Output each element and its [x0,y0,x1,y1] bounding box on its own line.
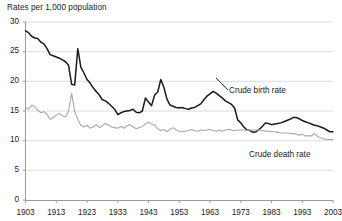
x-tick-label-1953: 1953 [170,208,188,217]
series-line-crude-death-rate [26,93,334,139]
y-tick-label-0: 0 [2,195,19,204]
y-tick-label-20: 20 [2,76,19,85]
y-tick-label-5: 5 [2,165,19,174]
x-tick-label-1913: 1913 [47,208,65,217]
y-tick-label-30: 30 [2,17,19,26]
y-tick-label-25: 25 [2,46,19,55]
x-tick-label-1963: 1963 [201,208,219,217]
x-tick-label-1943: 1943 [139,208,157,217]
x-tick-label-1923: 1923 [78,208,96,217]
x-tick-label-2003: 2003 [324,208,342,217]
series-label-crude-death-rate: Crude death rate [249,150,310,159]
x-tick-label-1983: 1983 [262,208,280,217]
data-series-group [26,31,334,140]
y-tick-label-15: 15 [2,106,19,115]
x-tick-label-1903: 1903 [16,208,34,217]
series-label-crude-birth-rate: Crude birth rate [229,86,286,95]
x-tick-label-1973: 1973 [232,208,250,217]
x-tick-label-1933: 1933 [109,208,127,217]
tick-marks-group [23,22,333,203]
x-tick-label-1993: 1993 [293,208,311,217]
y-tick-label-10: 10 [2,135,19,144]
birth-rate-leader-line [216,78,228,90]
